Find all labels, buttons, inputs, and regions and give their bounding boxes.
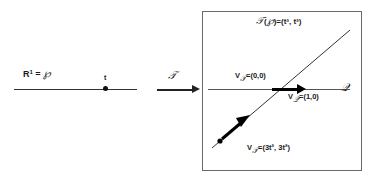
domain-point-label: t bbox=[104, 74, 106, 81]
map-arrow-label: 𝒯 bbox=[168, 70, 176, 81]
domain-equals-sign: = bbox=[35, 69, 40, 79]
image-label-space-symbol: ℘ bbox=[267, 15, 274, 26]
image-label-coords: (t³, t³) bbox=[281, 17, 301, 26]
vq-value: (1,0) bbox=[303, 92, 318, 101]
velocity-vector-shaft bbox=[222, 122, 242, 139]
domain-axis-exponent: 1 bbox=[30, 69, 33, 75]
velocity-t-origin-label: V𝒯=(0,0) bbox=[235, 72, 266, 83]
velocity-t-general-label: V𝒯=(3t², 3t²) bbox=[247, 144, 290, 155]
vt-general-value: (3t², 3t²) bbox=[262, 143, 290, 152]
vt-origin-value: (0,0) bbox=[250, 71, 265, 80]
domain-space-symbol: ℘ bbox=[43, 67, 51, 79]
domain-point-marker bbox=[103, 86, 108, 91]
image-label-map: 𝒯 bbox=[256, 15, 264, 26]
q-vector-shaft bbox=[272, 88, 299, 91]
velocity-q-label: V𝒬=(1,0) bbox=[288, 93, 319, 104]
image-curve-label: 𝒯(℘)=(t³, t³) bbox=[256, 16, 301, 26]
diagram-canvas: t R1 = ℘ 𝒯 𝒬 𝒯(℘)=(t³, t³) V𝒯=(0,0) V𝒬=(… bbox=[0, 0, 377, 178]
map-arrow-shaft bbox=[157, 89, 194, 91]
map-arrow-head-icon bbox=[192, 85, 200, 93]
velocity-vector-base-dot bbox=[217, 138, 222, 143]
domain-real-line bbox=[14, 89, 137, 90]
domain-space-label: R1 = ℘ bbox=[23, 68, 51, 79]
